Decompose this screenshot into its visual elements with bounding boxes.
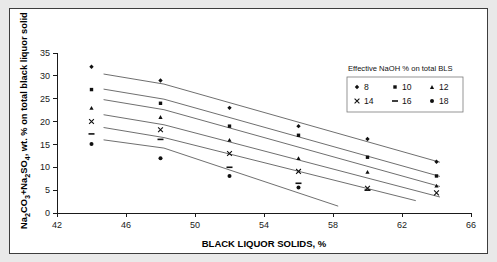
marker-diamond-point	[296, 124, 300, 128]
trendline-series-18	[104, 140, 339, 206]
marker-circle-legend	[430, 99, 434, 103]
marker-triangle-point	[296, 156, 300, 160]
legend-entry-label: 14	[364, 96, 374, 106]
marker-square-point	[435, 174, 438, 177]
marker-circle-point	[228, 174, 232, 178]
series-18	[90, 142, 301, 189]
y-tick-label: 10	[40, 162, 50, 172]
marker-cross-point	[158, 127, 163, 132]
marker-cross-point	[434, 190, 439, 195]
marker-triangle-point	[227, 138, 231, 142]
y-tick-label: 20	[40, 117, 50, 127]
legend-entry-label: 8	[364, 82, 369, 92]
marker-triangle-point	[158, 115, 162, 119]
series-14	[89, 119, 439, 195]
marker-diamond-point	[227, 106, 231, 110]
x-axis-label: BLACK LIQUOR SOLIDS, %	[202, 238, 327, 249]
y-tick-label: 0	[45, 208, 50, 218]
marker-diamond-point	[365, 137, 369, 141]
marker-diamond-point	[89, 65, 93, 69]
marker-triangle-point	[89, 106, 93, 110]
x-tick-label: 50	[190, 220, 200, 230]
legend-entry-label: 16	[402, 96, 412, 106]
marker-triangle-point	[365, 170, 369, 174]
chart-panel: Na2CO3+Na2SO4, wt. % on total black liqu…	[9, 8, 488, 254]
trendline-series-14	[104, 115, 440, 197]
marker-square-legend	[393, 85, 396, 88]
marker-square-point	[90, 88, 93, 91]
marker-diamond-point	[434, 160, 438, 164]
marker-diamond-point	[158, 78, 162, 82]
marker-square-point	[297, 134, 300, 137]
x-tick-label: 66	[466, 220, 476, 230]
trendline-series-12	[104, 100, 440, 187]
plot-svg: 0510152025303542465054586266BLACK LIQUOR…	[10, 9, 489, 255]
marker-square-point	[228, 124, 231, 127]
marker-square-point	[366, 156, 369, 159]
x-tick-label: 62	[397, 220, 407, 230]
marker-square-point	[159, 102, 162, 105]
y-tick-label: 15	[40, 140, 50, 150]
legend-entry-label: 10	[402, 82, 412, 92]
x-tick-label: 58	[328, 220, 338, 230]
y-tick-label: 25	[40, 94, 50, 104]
y-tick-label: 35	[40, 48, 50, 58]
marker-cross-point	[89, 119, 94, 124]
marker-circle-point	[297, 185, 301, 189]
x-tick-label: 46	[121, 220, 131, 230]
y-tick-label: 30	[40, 71, 50, 81]
x-tick-label: 42	[52, 220, 62, 230]
marker-circle-point	[90, 142, 94, 146]
legend-entry-label: 12	[439, 82, 449, 92]
marker-circle-point	[159, 156, 163, 160]
y-tick-label: 5	[45, 185, 50, 195]
figure-frame: Na2CO3+Na2SO4, wt. % on total black liqu…	[0, 0, 497, 262]
series-16	[89, 134, 371, 190]
chart-area: Na2CO3+Na2SO4, wt. % on total black liqu…	[10, 9, 489, 255]
x-tick-label: 54	[259, 220, 269, 230]
legend-entry-label: 18	[439, 96, 449, 106]
legend-title: Effective NaOH % on total BLS	[348, 64, 453, 73]
